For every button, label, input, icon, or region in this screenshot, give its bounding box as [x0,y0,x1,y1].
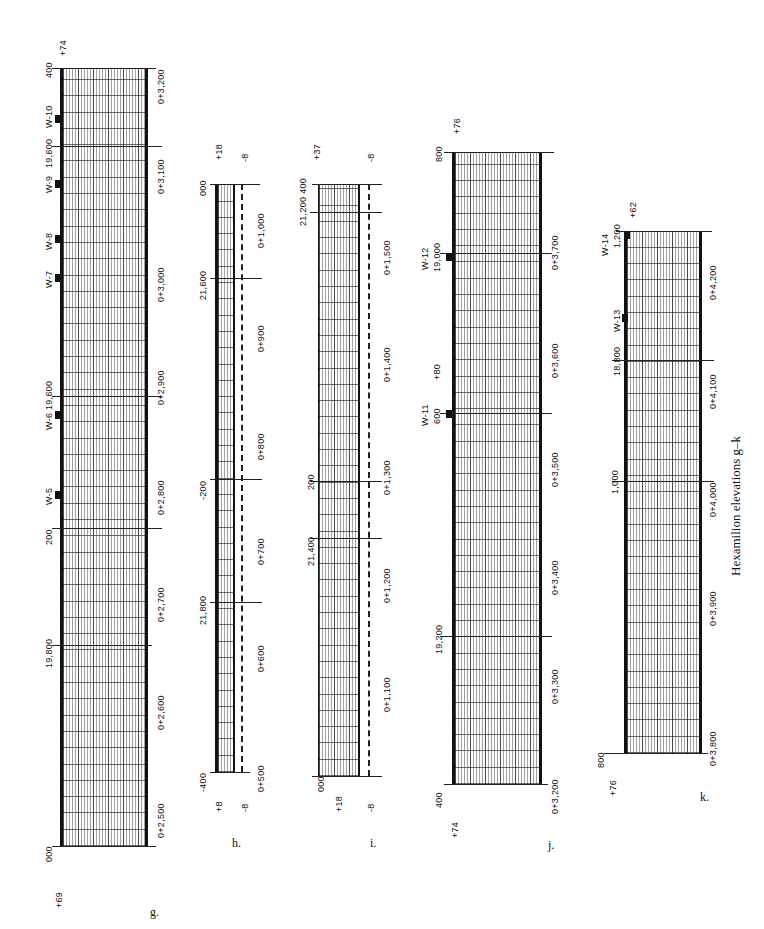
h-station-1000: 0+1,000 [256,213,266,248]
i-bottom-elev2: -8 [366,803,376,812]
h-station-600: 0+600 [256,645,266,672]
g-right-elev: +74 [58,40,68,56]
j-bottom-baseline [444,784,548,785]
h-station-800: 0+800 [256,433,266,460]
k-bottom-tick: 800 [596,752,606,768]
h-datum-line [241,184,243,772]
i-top-elev: +37 [312,144,322,160]
wall-marker [55,491,61,499]
k-station-3900: 0+3,900 [708,591,718,626]
k-gridline-18800 [612,360,714,361]
wall-label-w5: W-5 [44,488,54,505]
j-station-3200: 0+3,200 [550,779,560,814]
k-top-baseline [616,231,712,232]
h-station-700: 0+700 [256,538,266,565]
h-tick-21600: 21,600 [198,271,208,300]
wall-marker [446,253,452,261]
k-station-4200: 0+4,200 [708,265,718,300]
figure-caption: Hexamilion elevations g–k [728,436,744,576]
j-gridline-19200 [440,636,552,637]
k-station-4000: 0+4,000 [708,482,718,517]
i-datum-line [368,184,370,776]
k-bottom-baseline [604,753,708,754]
j-top-tick: 800 [434,146,444,162]
wall-label-w14: W-14 [600,233,610,256]
g-station-2700: 0+2,700 [156,587,166,622]
j-station-3700: 0+3,700 [550,235,560,270]
i-station-1200: 0+1,200 [382,568,392,603]
i-bottom-tick: 000 [316,776,326,792]
h-tick-21800: 21,800 [198,596,208,625]
j-station-3400: 0+3,400 [550,560,560,595]
j-top-baseline [444,152,554,153]
wall-label-w11: W-11 [420,404,430,426]
panel-i-grid [318,184,360,776]
i-station-1300: 0+1,300 [382,460,392,495]
h-station-900: 0+900 [256,325,266,352]
j-bottom-elev: +74 [450,822,460,838]
j-gridline-19000 [440,253,552,254]
g-tick-19600: 200 [44,529,54,545]
k-bottom-elev: +76 [608,780,618,796]
h-bottom-baseline [210,772,250,773]
j-bottom-tick: 400 [434,792,444,808]
k-top-elev: +62 [628,202,638,218]
g-top-tick: 400 [44,62,54,78]
h-gridline-21800 [210,602,262,603]
wall-marker [55,180,61,188]
h-top-elev2: -8 [240,153,250,162]
j-top-elev: +76 [452,118,462,134]
i-label: i. [370,836,376,851]
h-top-elev: +18 [214,144,224,160]
wall-marker [55,274,61,282]
panel-g-grid [60,68,148,846]
i-station-1400: 0+1,400 [382,347,392,382]
i-gridline-21400 [310,538,382,539]
g-gridline-19800 [52,645,152,646]
i-top-tick: 21,200 400 [298,178,308,226]
panel-h-grid [215,184,235,772]
k-gridline-1000 [612,481,714,482]
g-station-2500: 0+2,500 [156,803,166,838]
g-gridline-19400 [52,146,162,147]
i-bottom-elev: +18 [334,796,344,812]
g-left-elev: +69 [54,892,64,908]
h-top-tick: 000 [198,180,208,196]
i-top-elev2: -8 [366,153,376,162]
wall-marker [55,115,61,123]
h-gridline-21600 [210,278,262,279]
g-station-3100: 0+3,100 [156,159,166,194]
k-label: k. [700,790,709,805]
wall-label-w9: W-9 [44,176,54,193]
j-tick-19200: 19,200 [434,625,444,654]
g-station-2600: 0+2,600 [156,695,166,730]
i-tick-21400: 21,400 [306,537,316,566]
wall-marker [622,314,628,322]
j-spot-elev: +80 [432,364,442,380]
g-gridline-200 [52,528,162,529]
k-station-3800: 0+3,800 [708,731,718,766]
h-label: h. [232,836,241,851]
wall-label-w6: W-6 [44,413,54,430]
j-tick-19000: 19,000 [432,243,442,272]
g-label: g. [150,905,159,920]
g-bottom-baseline [52,846,156,847]
h-bottom-tick: -400 [198,773,208,792]
g-bottom-tick: 000 [44,846,54,862]
g-station-3000: 0+3,000 [156,267,166,302]
wall-label-w13: W-13 [612,309,622,332]
k-tick-1000: 1,000 [610,470,620,494]
j-tick-600: 600 [432,408,442,424]
h-top-baseline [210,184,260,185]
i-station-1100: 0+1,100 [382,677,392,712]
g-tick-19800: 19,800 [44,639,54,668]
g-station-2900: 0+2,900 [156,370,166,405]
wall-label-w8: W-8 [44,233,54,250]
j-gridline-600 [440,413,552,414]
j-label: j. [548,838,554,853]
panel-k-grid [624,231,702,753]
wall-marker [624,231,630,239]
h-bottom-elev: +8 [214,801,224,812]
panel-j-grid [452,152,542,784]
wall-marker [55,235,61,243]
